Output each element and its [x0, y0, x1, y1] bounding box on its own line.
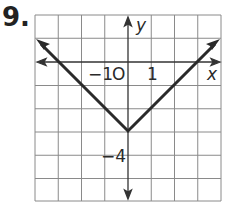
x-tick-1: 1 — [147, 66, 158, 83]
origin-label: O — [112, 66, 125, 83]
coordinate-plane — [0, 0, 231, 203]
x-axis-label: x — [207, 66, 217, 83]
y-axis-up-arrow — [125, 17, 132, 26]
y-axis-label: y — [136, 17, 146, 34]
left-arrow-icon — [36, 39, 50, 50]
y-tick-neg4: −4 — [101, 148, 126, 165]
right-arrow-icon — [206, 39, 220, 50]
x-axis-left-arrow — [37, 59, 46, 66]
y-axis-down-arrow — [125, 190, 132, 199]
x-tick-neg1: −1 — [88, 66, 113, 83]
axes — [37, 17, 220, 199]
